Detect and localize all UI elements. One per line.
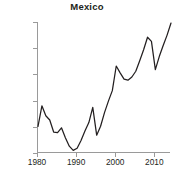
x-tick-label: 2010 <box>124 158 174 167</box>
series-polyline <box>38 23 171 150</box>
chart-container: Mexico 60,00065,00070,00075,00080,00085,… <box>0 0 174 171</box>
x-tick-mark <box>76 153 77 157</box>
plot-area <box>37 22 170 153</box>
x-tick-mark <box>37 153 38 157</box>
chart-title: Mexico <box>0 1 174 13</box>
x-tick-mark <box>154 153 155 157</box>
line-series-mexico <box>38 22 171 153</box>
x-tick-mark <box>115 153 116 157</box>
